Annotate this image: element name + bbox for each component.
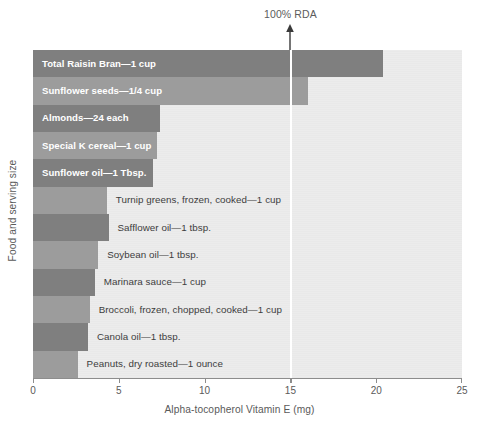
bar-label: Sunflower oil—1 Tbsp. bbox=[42, 168, 146, 178]
x-tick bbox=[376, 378, 377, 383]
bar bbox=[33, 214, 109, 241]
bar-label: Special K cereal—1 cup bbox=[42, 141, 151, 151]
x-tick-label: 25 bbox=[456, 385, 467, 396]
bar-label: Safflower oil—1 tbsp. bbox=[118, 223, 211, 233]
x-tick-label: 10 bbox=[199, 385, 210, 396]
bar-label: Broccoli, frozen, chopped, cooked—1 cup bbox=[99, 305, 282, 315]
x-axis-title: Alpha-tocopherol Vitamin E (mg) bbox=[0, 404, 479, 415]
bar-label: Total Raisin Bran—1 cup bbox=[42, 59, 156, 69]
vitamin-e-bar-chart: 100% RDA Total Raisin Bran—1 cupSunflowe… bbox=[0, 0, 479, 423]
y-axis-title: Food and serving size bbox=[7, 141, 18, 281]
bar-label: Canola oil—1 tbsp. bbox=[97, 332, 181, 342]
rda-arrow-icon bbox=[284, 24, 296, 50]
bar-row: Total Raisin Bran—1 cup bbox=[33, 50, 462, 77]
bar-row: Peanuts, dry roasted—1 ounce bbox=[33, 351, 462, 378]
bar-row: Turnip greens, frozen, cooked—1 cup bbox=[33, 187, 462, 214]
bar-label: Marinara sauce—1 cup bbox=[104, 277, 206, 287]
x-tick bbox=[205, 378, 206, 383]
x-axis-line bbox=[33, 378, 462, 379]
bar-label: Soybean oil—1 tbsp. bbox=[107, 250, 198, 260]
x-tick bbox=[290, 378, 291, 383]
bar-row: Marinara sauce—1 cup bbox=[33, 269, 462, 296]
rda-annotation-label: 100% RDA bbox=[230, 8, 350, 20]
bar-label: Sunflower seeds—1/4 cup bbox=[42, 86, 162, 96]
bar bbox=[33, 241, 98, 268]
bar bbox=[33, 269, 95, 296]
bar-row: Sunflower oil—1 Tbsp. bbox=[33, 159, 462, 186]
plot-area: Total Raisin Bran—1 cupSunflower seeds—1… bbox=[33, 50, 462, 378]
bar-row: Sunflower seeds—1/4 cup bbox=[33, 77, 462, 104]
bar-row: Almonds—24 each bbox=[33, 105, 462, 132]
x-tick-label: 5 bbox=[116, 385, 122, 396]
rda-reference-line bbox=[290, 50, 291, 378]
bar-row: Safflower oil—1 tbsp. bbox=[33, 214, 462, 241]
bar bbox=[33, 323, 88, 350]
bar-row: Special K cereal—1 cup bbox=[33, 132, 462, 159]
bar-label: Almonds—24 each bbox=[42, 113, 129, 123]
x-tick bbox=[461, 378, 462, 383]
x-tick bbox=[33, 378, 34, 383]
bar-row: Broccoli, frozen, chopped, cooked—1 cup bbox=[33, 296, 462, 323]
bar-row: Canola oil—1 tbsp. bbox=[33, 323, 462, 350]
bar bbox=[33, 187, 107, 214]
bar-label: Peanuts, dry roasted—1 ounce bbox=[87, 359, 223, 369]
x-tick-label: 20 bbox=[371, 385, 382, 396]
x-tick-label: 15 bbox=[285, 385, 296, 396]
x-tick-label: 0 bbox=[30, 385, 36, 396]
bar-row: Soybean oil—1 tbsp. bbox=[33, 241, 462, 268]
bar bbox=[33, 296, 90, 323]
bar bbox=[33, 351, 78, 378]
x-tick bbox=[119, 378, 120, 383]
bar-label: Turnip greens, frozen, cooked—1 cup bbox=[116, 195, 281, 205]
